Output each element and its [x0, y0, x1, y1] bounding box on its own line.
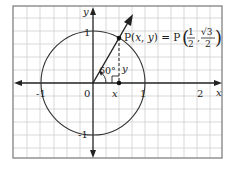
y-axis-arrow-up	[90, 7, 96, 15]
y-axis-arrow-down	[90, 150, 96, 158]
x-tick-2: 2	[197, 88, 203, 99]
segment-x-label: x	[112, 88, 118, 99]
origin-label: 0	[84, 88, 90, 99]
x-coord-numerator: 1	[188, 27, 194, 37]
point-p	[117, 36, 122, 41]
point-label-group: P(x, y) = P ( 1 2 , √3 2 )	[124, 27, 222, 49]
y-tick-neg1: -1	[78, 129, 88, 140]
angle-label: 60°	[99, 65, 116, 76]
x-axis-label: x	[216, 87, 222, 98]
x-tick-1: 1	[140, 88, 146, 99]
y-coord-numerator: √3	[201, 27, 213, 37]
y-axis-label: y	[82, 6, 89, 17]
x-axis-arrow-right	[214, 80, 222, 86]
unit-circle-diagram: y x 0 -1 1 2 1 -1 60° y x P(x, y) = P ( …	[0, 0, 234, 171]
comma: ,	[197, 32, 200, 43]
x-coord-denominator: 2	[188, 39, 194, 49]
paren-close: )	[215, 27, 222, 48]
y-coord-denominator: 2	[205, 39, 211, 49]
x-axis-arrow-left	[14, 80, 22, 86]
segment-y-label: y	[121, 63, 128, 74]
x-tick-neg1: -1	[36, 88, 46, 99]
point-label: P(x, y) = P	[124, 31, 180, 43]
point-foot	[117, 81, 122, 86]
y-tick-1: 1	[84, 27, 90, 38]
